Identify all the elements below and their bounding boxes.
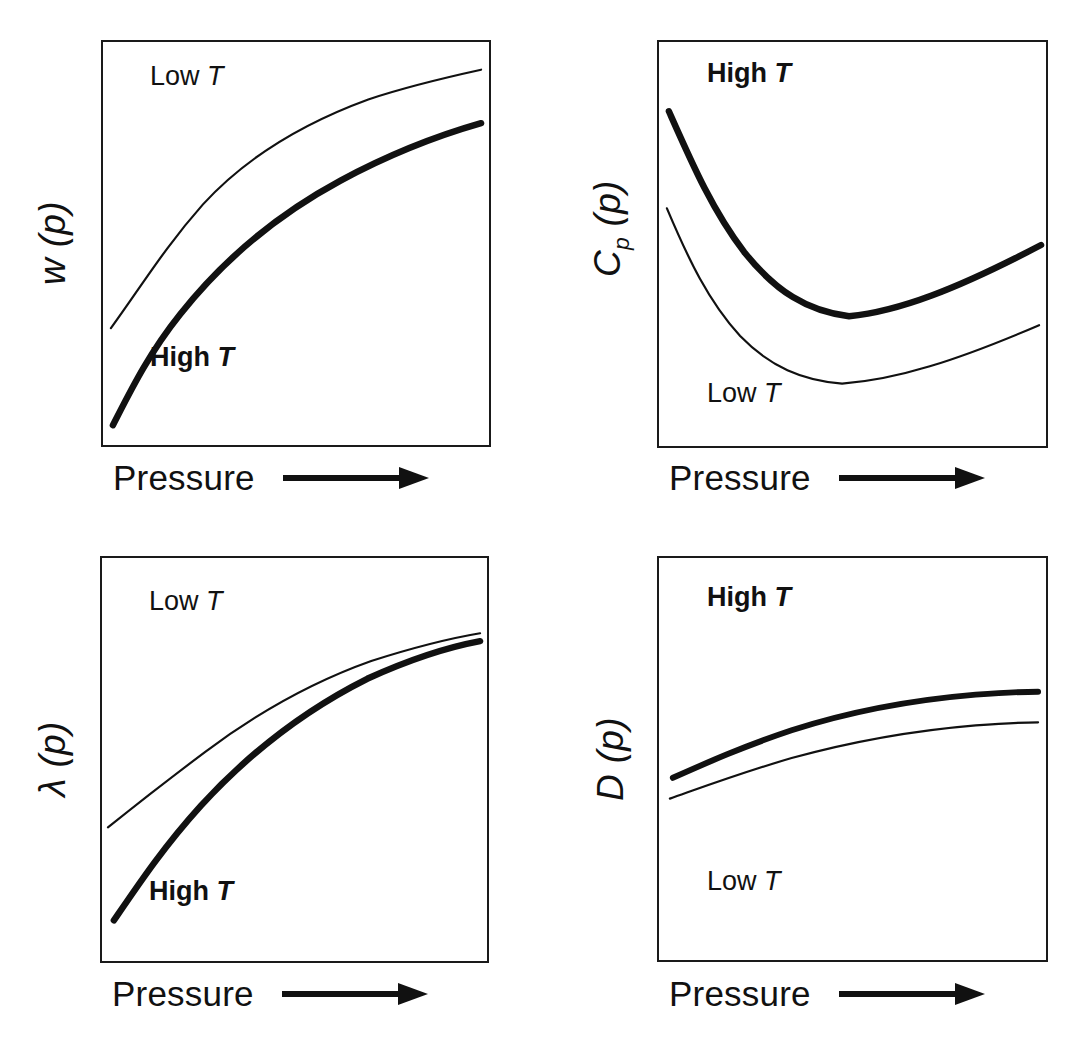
arrow-right-icon	[837, 463, 987, 493]
panel-lambda: Low T High T λ (p) Pressure	[0, 516, 543, 1054]
curve-high-t	[673, 692, 1038, 778]
x-axis-label: Pressure	[669, 458, 811, 498]
arrow-right-icon	[281, 463, 431, 493]
x-axis-label: Pressure	[113, 458, 255, 498]
curve-low-t	[108, 633, 480, 827]
plot-frame-lambda: Low T High T	[100, 556, 489, 963]
curve-low-t	[670, 722, 1038, 798]
y-axis-label-lambda: λ (p)	[32, 674, 74, 844]
x-axis-w: Pressure	[113, 458, 431, 498]
curve-high-t	[669, 111, 1041, 316]
series-label-low-t: Low T	[707, 378, 781, 409]
plot-curves-w	[103, 42, 489, 445]
series-label-high-t: High T	[150, 342, 234, 373]
plot-frame-w: Low T High T	[101, 40, 491, 447]
plot-curves-d	[659, 558, 1046, 960]
y-axis-label-cp: Cp (p)	[587, 144, 634, 314]
plot-frame-d: High T Low T	[657, 556, 1048, 962]
plot-frame-cp: High T Low T	[657, 40, 1048, 448]
series-label-high-t: High T	[707, 58, 791, 89]
series-label-high-t: High T	[149, 876, 233, 907]
y-axis-label-d: D (p)	[590, 674, 632, 844]
x-axis-label: Pressure	[669, 974, 811, 1014]
series-label-high-t: High T	[707, 582, 791, 613]
four-panel-figure: Low T High T w (p) Pressure High T L	[0, 0, 1087, 1054]
arrow-right-icon	[280, 979, 430, 1009]
x-axis-cp: Pressure	[669, 458, 987, 498]
panel-cp: High T Low T Cp (p) Pressure	[556, 0, 1087, 527]
x-axis-lambda: Pressure	[112, 974, 430, 1014]
series-label-low-t: Low T	[149, 586, 223, 617]
series-label-low-t: Low T	[150, 61, 224, 92]
curve-low-t	[667, 208, 1039, 383]
curve-high-t	[113, 123, 481, 425]
y-axis-label-w: w (p)	[32, 158, 74, 328]
arrow-right-icon	[837, 979, 987, 1009]
panel-w: Low T High T w (p) Pressure	[0, 0, 543, 527]
panel-d: High T Low T D (p) Pressure	[556, 516, 1087, 1054]
series-label-low-t: Low T	[707, 866, 781, 897]
curve-low-t	[111, 70, 481, 328]
x-axis-d: Pressure	[669, 974, 987, 1014]
x-axis-label: Pressure	[112, 974, 254, 1014]
